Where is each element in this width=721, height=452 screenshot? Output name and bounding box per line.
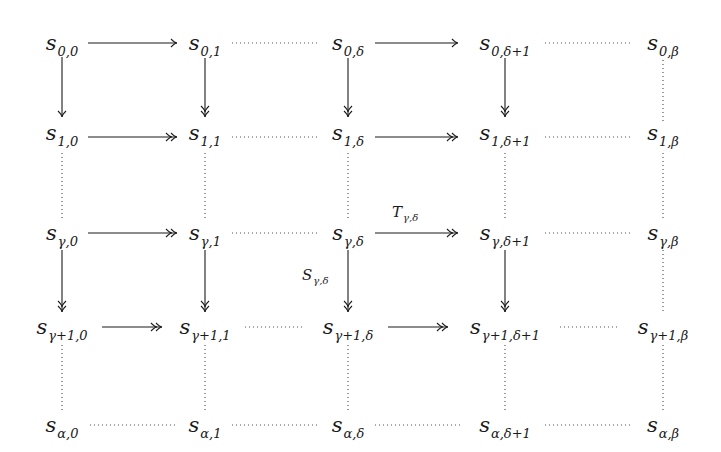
node-subscript: 1,δ+1	[491, 134, 530, 149]
arrow-ngd-ng1d	[344, 250, 352, 312]
node-n01: s0,1	[189, 33, 221, 54]
arrow-n01-n11	[201, 58, 209, 117]
node-subscript: γ,β	[659, 234, 678, 249]
edge-label-T: Tγ,δ	[392, 205, 418, 220]
node-subscript: γ,1	[201, 234, 221, 249]
arrow-ng1d-ng1d1	[388, 323, 448, 331]
node-ng11: sγ+1,1	[179, 317, 230, 338]
node-subscript: 1,δ	[344, 134, 364, 149]
commutative-diagram: s0,0s0,1s0,δs0,δ+1s0,βs1,0s1,1s1,δs1,δ+1…	[0, 0, 721, 452]
node-subscript: α,1	[200, 426, 221, 441]
node-subscript: γ,0	[58, 234, 78, 249]
node-symbol: s	[480, 221, 491, 245]
arrow-n0d-n1d	[344, 58, 352, 117]
node-n00: s0,0	[46, 33, 78, 54]
node-symbol: s	[179, 315, 190, 339]
node-symbol: s	[479, 413, 490, 437]
node-n1b: s1,β	[647, 123, 679, 144]
node-symbol: s	[470, 315, 481, 339]
node-subscript: 0,δ	[344, 44, 364, 59]
node-n0d: s0,δ	[332, 33, 364, 54]
node-symbol: s	[647, 31, 658, 55]
node-subscript: 0,δ+1	[491, 44, 530, 59]
node-subscript: 0,0	[58, 44, 79, 59]
edge-label-S: Sγ,δ	[302, 268, 328, 283]
node-subscript: γ+1,δ	[334, 328, 373, 343]
node-ngd1: sγ,δ+1	[480, 223, 531, 244]
node-subscript: γ+1,δ+1	[482, 328, 540, 343]
arrow-ng0-ng10	[58, 250, 66, 312]
node-n0b: s0,β	[647, 33, 679, 54]
node-subscript: 0,1	[201, 44, 222, 59]
node-symbol: s	[479, 31, 490, 55]
arrow-n0d-n0d1	[375, 39, 458, 47]
node-nab: sα,β	[647, 415, 679, 436]
node-n1d: s1,δ	[332, 123, 364, 144]
node-symbol: s	[189, 413, 200, 437]
edge-label-subscript: γ,δ	[403, 212, 418, 223]
arrow-ngd1-ng1d1	[501, 250, 509, 312]
node-ng1d1: sγ+1,δ+1	[470, 317, 540, 338]
node-symbol: s	[46, 221, 57, 245]
node-symbol: s	[36, 315, 47, 339]
node-symbol: s	[46, 121, 57, 145]
node-subscript: 1,β	[659, 134, 679, 149]
arrow-ngd-ngd1	[375, 229, 458, 237]
arrow-ng0-ng1	[88, 229, 177, 237]
node-ng1: sγ,1	[189, 223, 221, 244]
node-symbol: s	[647, 221, 658, 245]
arrow-n00-n10	[58, 57, 66, 117]
node-ng0: sγ,0	[46, 223, 78, 244]
node-n1d1: s1,δ+1	[479, 123, 530, 144]
node-nad: sα,δ	[332, 415, 365, 436]
node-symbol: s	[189, 121, 200, 145]
node-n10: s1,0	[46, 123, 78, 144]
arrow-n10-n11	[88, 133, 177, 141]
node-subscript: α,0	[57, 426, 78, 441]
node-subscript: γ+1,0	[48, 328, 87, 343]
node-subscript: γ+1,β	[650, 328, 689, 343]
node-subscript: γ+1,1	[191, 328, 230, 343]
node-symbol: s	[46, 413, 57, 437]
node-symbol: s	[332, 121, 343, 145]
edge-label-symbol: T	[392, 203, 402, 221]
node-symbol: s	[189, 31, 200, 55]
node-subscript: 1,0	[58, 134, 79, 149]
node-symbol: s	[332, 221, 343, 245]
node-symbol: s	[647, 121, 658, 145]
node-symbol: s	[332, 31, 343, 55]
node-symbol: s	[638, 315, 649, 339]
node-ng1b: sγ+1,β	[638, 317, 688, 338]
node-symbol: s	[647, 413, 658, 437]
node-subscript: 0,β	[659, 44, 679, 59]
node-symbol: s	[189, 221, 200, 245]
arrow-ng1-ng11	[201, 250, 209, 312]
node-n11: s1,1	[189, 123, 221, 144]
node-ngd: sγ,δ	[332, 223, 364, 244]
node-nad1: sα,δ+1	[479, 415, 531, 436]
node-symbol: s	[46, 31, 57, 55]
node-na1: sα,1	[189, 415, 222, 436]
node-subscript: γ,δ	[344, 234, 364, 249]
node-subscript: α,β	[659, 426, 679, 441]
node-symbol: s	[479, 121, 490, 145]
edge-label-subscript: γ,δ	[313, 275, 328, 286]
node-subscript: 1,1	[201, 134, 222, 149]
node-symbol: s	[332, 413, 343, 437]
node-subscript: γ,δ+1	[491, 234, 530, 249]
node-subscript: α,δ+1	[491, 426, 531, 441]
arrow-n0d1-n1d1	[501, 58, 509, 117]
arrow-n1d-n1d1	[375, 133, 458, 141]
arrow-n00-n01	[88, 39, 177, 47]
node-ng10: sγ+1,0	[36, 317, 87, 338]
node-ngb: sγ,β	[647, 223, 678, 244]
node-n0d1: s0,δ+1	[479, 33, 530, 54]
node-subscript: α,δ	[344, 426, 365, 441]
node-na0: sα,0	[46, 415, 79, 436]
edge-label-symbol: S	[302, 266, 312, 284]
node-ng1d: sγ+1,δ	[323, 317, 374, 338]
arrow-ng10-ng11	[102, 323, 162, 331]
node-symbol: s	[323, 315, 334, 339]
